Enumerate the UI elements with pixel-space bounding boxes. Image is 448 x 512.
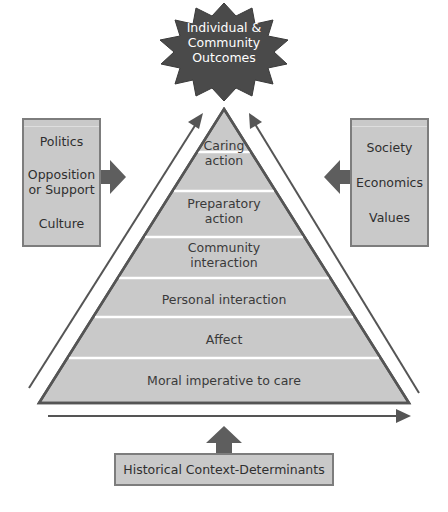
level-caring-action: Caring action [184, 138, 264, 168]
right-item-society: Society [352, 140, 427, 155]
right-item-economics: Economics [352, 175, 427, 190]
left-factors-box: Politics Opposition or Support Culture [22, 118, 101, 247]
right-factors-box: Society Economics Values [350, 118, 429, 247]
box-top-line [24, 126, 99, 127]
outcome-line-1: Individual & [174, 20, 274, 35]
level-affect: Affect [164, 332, 284, 347]
left-item-opposition-support: Opposition or Support [24, 167, 99, 197]
historical-context-box: Historical Context-Determinants [114, 453, 334, 486]
left-item-culture: Culture [24, 216, 99, 231]
right-box-arrow [324, 160, 350, 194]
historical-context-label: Historical Context-Determinants [123, 462, 324, 477]
bottom-box-arrow [206, 426, 242, 453]
level-moral-imperative: Moral imperative to care [114, 373, 334, 388]
right-item-values: Values [352, 210, 427, 225]
bottom-horizontal-arrow [48, 409, 411, 423]
outcome-label: Individual & Community Outcomes [174, 20, 274, 65]
level-personal-interaction: Personal interaction [134, 292, 314, 307]
outcome-line-3: Outcomes [174, 50, 274, 65]
left-item-politics: Politics [24, 134, 99, 149]
level-preparatory-action: Preparatory action [174, 196, 274, 226]
left-box-arrow [100, 160, 126, 194]
outcome-line-2: Community [174, 35, 274, 50]
level-community-interaction: Community interaction [164, 240, 284, 270]
box-top-line [352, 126, 427, 127]
